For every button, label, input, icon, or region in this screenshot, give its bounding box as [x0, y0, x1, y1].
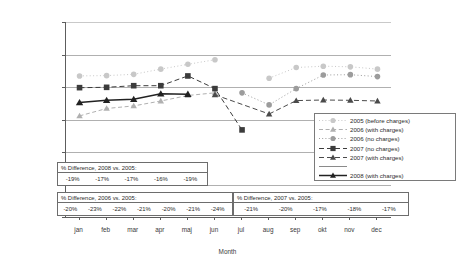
difference-table-2008: % Difference, 2008 vs. 2005: -19%-17%-17…: [57, 162, 208, 186]
difference-value: -20%: [156, 206, 181, 212]
difference-title: % Difference, 2006 vs. 2005:: [58, 193, 232, 203]
difference-values: -20%-23%-22%-21%-20%-21%-24%: [58, 203, 232, 214]
x-tick-mark: [268, 217, 269, 220]
difference-value: -21%: [132, 206, 157, 212]
legend-item-4[interactable]: 2007 (with charges): [318, 153, 452, 162]
difference-title: % Difference, 2007 vs. 2005:: [234, 193, 408, 203]
difference-value: -24%: [205, 206, 230, 212]
legend-key-icon: [318, 162, 348, 171]
legend-label: 2007 (with charges): [348, 154, 404, 161]
legend-key-icon: [318, 153, 348, 162]
difference-table-2006: % Difference, 2006 vs. 2005: -20%-23%-22…: [57, 192, 233, 216]
series-1: [76, 90, 218, 119]
legend-key-icon: [318, 144, 348, 153]
legend-key-icon: [318, 116, 348, 125]
difference-value: -17%: [87, 176, 116, 182]
legend-label: 2005 (before charges): [348, 117, 410, 124]
difference-value: -21%: [234, 206, 268, 212]
difference-value: -21%: [181, 206, 206, 212]
legend-item-3[interactable]: 2007 (no charges): [318, 144, 452, 153]
legend-item-0[interactable]: 2005 (before charges): [318, 116, 452, 125]
legend-label: 2007 (no charges): [348, 145, 399, 152]
difference-value: -19%: [58, 176, 87, 182]
x-tick-mark: [187, 217, 188, 220]
series-bridge: [215, 95, 269, 114]
x-tick-mark: [322, 217, 323, 220]
series-0: [77, 57, 381, 81]
x-tick-label-dec: dec: [359, 226, 393, 233]
chart-legend[interactable]: 2005 (before charges)2006 (with charges)…: [314, 113, 456, 181]
difference-value: -17%: [372, 206, 406, 212]
legend-key-icon: [318, 125, 348, 134]
x-tick-mark: [241, 217, 242, 220]
x-tick-mark: [79, 217, 80, 220]
legend-label: 2006 (no charges): [348, 135, 399, 142]
series-2: [239, 72, 380, 108]
chart-root: 0100 000200 000300 000400 000500 000600 …: [0, 0, 459, 261]
difference-table-2007: % Difference, 2007 vs. 2005: -21%-20%-17…: [233, 192, 409, 216]
x-tick-mark: [133, 217, 134, 220]
legend-key-icon: [318, 134, 348, 143]
difference-value: -19%: [176, 176, 205, 182]
difference-value: -18%: [337, 206, 371, 212]
difference-value: -20%: [58, 206, 83, 212]
x-axis-title: Month: [65, 248, 390, 255]
legend-label: 2006 (with charges): [348, 126, 404, 133]
legend-item-5[interactable]: [318, 162, 452, 171]
legend-item-1[interactable]: 2006 (with charges): [318, 125, 452, 134]
difference-value: -23%: [83, 206, 108, 212]
legend-item-2[interactable]: 2006 (no charges): [318, 134, 452, 143]
difference-value: -17%: [303, 206, 337, 212]
legend-key-icon: [318, 171, 348, 180]
legend-item-6[interactable]: 2008 (with charges): [318, 171, 452, 180]
legend-label: 2008 (with charges): [348, 172, 404, 179]
difference-values: -21%-20%-17%-18%-17%: [234, 203, 408, 214]
x-tick-mark: [214, 217, 215, 220]
x-tick-mark: [106, 217, 107, 220]
difference-title: % Difference, 2008 vs. 2005:: [58, 163, 207, 173]
difference-value: -17%: [117, 176, 146, 182]
difference-values: -19%-17%-17%-16%-19%: [58, 173, 207, 184]
x-tick-mark: [376, 217, 377, 220]
x-tick-mark: [295, 217, 296, 220]
difference-value: -22%: [107, 206, 132, 212]
x-tick-mark: [160, 217, 161, 220]
x-tick-mark: [349, 217, 350, 220]
difference-value: -16%: [146, 176, 175, 182]
difference-value: -20%: [268, 206, 302, 212]
